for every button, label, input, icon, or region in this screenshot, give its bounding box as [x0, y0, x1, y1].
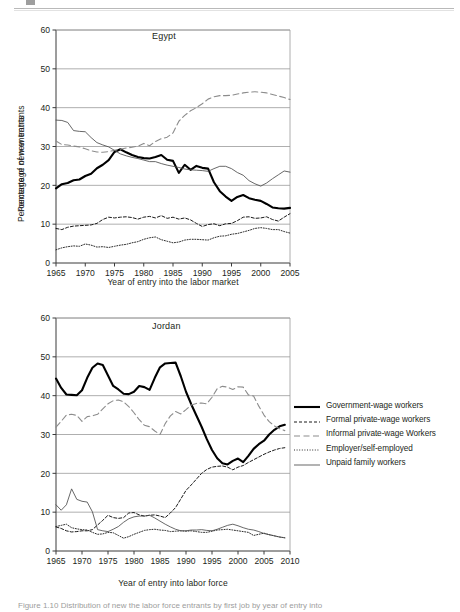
svg-text:1990: 1990 — [176, 556, 195, 566]
x-axis-title-egypt: Year of entry into the labor market — [48, 277, 298, 287]
svg-text:2000: 2000 — [228, 556, 247, 566]
legend-line-swatch — [293, 414, 321, 426]
figure-caption: Figure 1.10 Distribution of new the labo… — [18, 600, 448, 612]
chart-title-jordan: Jordan — [152, 321, 181, 331]
svg-text:10: 10 — [40, 219, 50, 229]
svg-text:0: 0 — [45, 258, 50, 268]
svg-text:20: 20 — [40, 469, 50, 479]
header-rule-secondary — [14, 10, 454, 11]
legend-item: Government-wage workers — [293, 398, 460, 412]
legend-item-label: Unpaid family workers — [326, 458, 406, 467]
legend-line-swatch — [293, 457, 321, 469]
svg-text:10: 10 — [40, 507, 50, 517]
legend-item: Informal private-wage Workers — [293, 427, 460, 441]
svg-text:30: 30 — [40, 430, 50, 440]
svg-text:2005: 2005 — [254, 556, 273, 566]
legend-item-label: Government-wage workers — [326, 401, 423, 410]
svg-text:60: 60 — [40, 313, 50, 323]
svg-text:1970: 1970 — [72, 556, 91, 566]
svg-text:60: 60 — [40, 25, 50, 35]
y-axis-title-jordan: Percentage of new entrants — [16, 115, 26, 222]
svg-text:30: 30 — [40, 142, 50, 152]
svg-text:1975: 1975 — [98, 556, 117, 566]
svg-text:50: 50 — [40, 352, 50, 362]
legend-line-swatch — [293, 399, 321, 411]
svg-text:1965: 1965 — [46, 556, 65, 566]
svg-text:0: 0 — [45, 546, 50, 556]
figure-page: 0102030405060196519701975198019851990199… — [0, 0, 460, 612]
legend-line-swatch — [293, 428, 321, 440]
svg-text:40: 40 — [40, 103, 50, 113]
chart-svg-egypt: 0102030405060196519701975198019851990199… — [0, 18, 460, 293]
legend-line-swatch — [293, 442, 321, 454]
chart-panel-egypt: 0102030405060196519701975198019851990199… — [0, 18, 460, 293]
svg-text:1985: 1985 — [150, 556, 169, 566]
svg-text:40: 40 — [40, 391, 50, 401]
svg-text:20: 20 — [40, 181, 50, 191]
legend-item: Employer/self-employed — [293, 441, 460, 455]
plot-area-egypt: 0102030405060196519701975198019851990199… — [0, 18, 460, 293]
legend-item: Unpaid family workers — [293, 456, 460, 470]
legend-item-label: Informal private-wage Workers — [326, 429, 436, 438]
x-axis-title-jordan: Year of entry into labor force — [48, 578, 298, 588]
legend-item: Formal private-wage workers — [293, 412, 460, 426]
svg-text:2010: 2010 — [280, 556, 299, 566]
legend-item-label: Employer/self-employed — [326, 444, 413, 453]
chart-title-egypt: Egypt — [152, 31, 176, 41]
page-header-stub — [26, 0, 35, 5]
svg-text:1995: 1995 — [202, 556, 221, 566]
svg-text:50: 50 — [40, 64, 50, 74]
svg-text:1980: 1980 — [124, 556, 143, 566]
chart-legend: Government-wage workersFormal private-wa… — [293, 398, 460, 470]
header-rule — [14, 8, 454, 9]
legend-item-label: Formal private-wage workers — [326, 415, 430, 424]
